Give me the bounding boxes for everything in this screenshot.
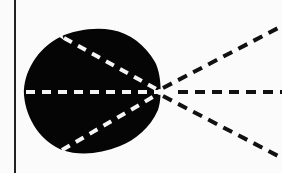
eye-ray-diagram (0, 0, 282, 173)
vertex-point (157, 89, 163, 95)
